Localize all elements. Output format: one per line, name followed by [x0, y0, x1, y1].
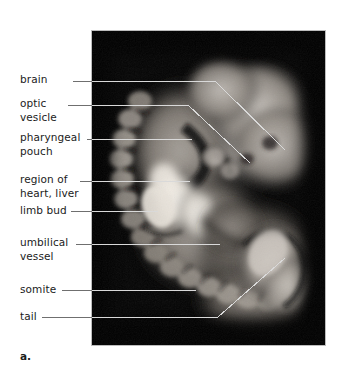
embryo-micrograph: [92, 31, 325, 345]
label-optic-vesicle: optic vesicle: [20, 97, 57, 124]
label-brain: brain: [20, 73, 48, 87]
micrograph-image: [92, 31, 325, 345]
label-limb-bud: limb bud: [20, 204, 67, 218]
label-somite: somite: [20, 283, 56, 297]
label-pharyngeal-pouch: pharyngeal pouch: [20, 131, 80, 158]
figure-caption: a.: [20, 350, 31, 362]
label-tail: tail: [20, 310, 37, 324]
label-region-of-heart-liver: region of heart, liver: [20, 173, 79, 200]
label-umbilical-vessel: umbilical vessel: [20, 236, 68, 263]
embryo-figure: brain optic vesicle pharyngeal pouch reg…: [0, 0, 344, 370]
